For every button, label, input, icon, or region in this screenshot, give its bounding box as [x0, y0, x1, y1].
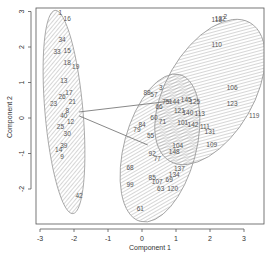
- point-label: 131: [205, 128, 216, 135]
- point-label: 113: [195, 110, 206, 117]
- point-label: 15: [64, 47, 72, 54]
- x-axis: -3-2-10123: [37, 229, 246, 242]
- point-label: 12: [67, 118, 75, 125]
- point-label: 119: [249, 112, 260, 119]
- point-label: 109: [206, 141, 217, 148]
- x-tick-label: 0: [140, 235, 144, 242]
- point-label: 57: [150, 91, 158, 98]
- y-tick-label: 0: [18, 116, 25, 120]
- point-label: 25: [57, 123, 65, 130]
- x-axis-title: Component 1: [129, 244, 171, 252]
- point-label: 66: [155, 103, 163, 110]
- point-label: 142: [188, 121, 199, 128]
- point-label: 140: [182, 109, 193, 116]
- point-label: 30: [64, 130, 72, 137]
- point-label: 18: [64, 59, 72, 66]
- point-label: 3: [159, 84, 163, 91]
- point-label: 42: [75, 192, 83, 199]
- point-label: 19: [72, 63, 80, 70]
- point-label: 125: [189, 98, 200, 105]
- x-tick-label: -1: [105, 235, 111, 242]
- point-label: 69: [166, 176, 174, 183]
- point-label: 13: [60, 77, 68, 84]
- point-label: 106: [227, 84, 238, 91]
- point-label: 71: [159, 118, 167, 125]
- x-tick-label: -3: [37, 235, 43, 242]
- x-tick-label: 3: [242, 235, 246, 242]
- point-label: 9: [60, 153, 64, 160]
- y-tick-label: 1: [18, 80, 25, 84]
- point-label: 60: [150, 114, 158, 121]
- point-label: 23: [50, 100, 58, 107]
- point-label: 63: [157, 185, 165, 192]
- point-label: 77: [154, 155, 162, 162]
- point-label: 2: [223, 13, 227, 20]
- point-label: 144: [169, 98, 180, 105]
- y-axis-title: Component 2: [6, 96, 14, 138]
- point-label: 79: [133, 126, 141, 133]
- point-label: 68: [126, 164, 134, 171]
- point-label: 61: [137, 205, 145, 212]
- x-tick-label: -2: [71, 235, 77, 242]
- x-tick-label: 2: [208, 235, 212, 242]
- point-label: 123: [227, 100, 238, 107]
- point-label: 107: [152, 178, 163, 185]
- x-tick-label: 1: [174, 235, 178, 242]
- point-label: 148: [169, 148, 180, 155]
- scatter-chart: 1163433151819132623172184012253014399423…: [0, 0, 275, 263]
- point-label: 21: [69, 98, 77, 105]
- point-label: 1: [59, 9, 63, 16]
- point-label: 16: [64, 15, 72, 22]
- point-label: 34: [58, 36, 66, 43]
- point-label: 120: [167, 185, 178, 192]
- plot-area: 1163433151819132623172184012253014399423…: [36, 1, 275, 231]
- y-tick-label: -2: [18, 186, 25, 192]
- point-label: 17: [65, 89, 73, 96]
- y-tick-label: -1: [18, 150, 25, 156]
- y-axis: -2-10123: [18, 9, 31, 192]
- point-label: 33: [53, 48, 61, 55]
- y-tick-label: 2: [18, 45, 25, 49]
- point-label: 39: [60, 142, 68, 149]
- point-label: 99: [126, 181, 134, 188]
- y-tick-label: 3: [18, 9, 25, 13]
- point-label: 110: [212, 41, 223, 48]
- point-label: 55: [147, 132, 155, 139]
